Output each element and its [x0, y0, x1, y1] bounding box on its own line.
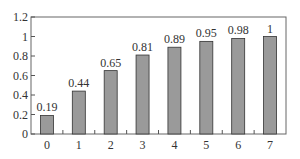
bar-value-label: 1: [267, 22, 273, 36]
bar-value-label: 0.19: [36, 100, 57, 114]
y-tick-label: 1: [22, 30, 28, 44]
bar-chart: 00.20.40.60.811.2 01234567 0.190.440.650…: [0, 0, 300, 159]
bar-value-label: 0.89: [164, 32, 185, 46]
bar-2: [104, 71, 117, 134]
bar-7: [264, 37, 277, 135]
bar-1: [72, 91, 85, 134]
y-tick-label: 0.4: [13, 88, 28, 102]
bar-value-label: 0.98: [228, 23, 249, 37]
y-tick-label: 0.2: [13, 108, 28, 122]
x-tick-label: 4: [171, 138, 177, 152]
bar-0: [40, 115, 53, 134]
bar-5: [200, 41, 213, 134]
bar-3: [136, 55, 149, 134]
x-tick-label: 1: [76, 138, 82, 152]
x-tick-label: 5: [203, 138, 209, 152]
bar-value-label: 0.44: [68, 76, 89, 90]
x-tick-label: 0: [44, 138, 50, 152]
bar-6: [232, 38, 245, 134]
bar-value-label: 0.95: [196, 26, 217, 40]
x-tick-label: 3: [140, 138, 146, 152]
y-tick-label: 1.2: [13, 10, 28, 24]
y-tick-label: 0: [22, 127, 28, 141]
y-tick-label: 0.8: [13, 49, 28, 63]
bar-value-label: 0.81: [132, 40, 153, 54]
y-tick-label: 0.6: [13, 69, 28, 83]
x-tick-label: 7: [267, 138, 273, 152]
bar-4: [168, 47, 181, 134]
x-tick-label: 2: [108, 138, 114, 152]
y-axis: 00.20.40.60.811.2: [13, 10, 35, 141]
x-tick-label: 6: [235, 138, 241, 152]
bar-value-label: 0.65: [100, 56, 121, 70]
